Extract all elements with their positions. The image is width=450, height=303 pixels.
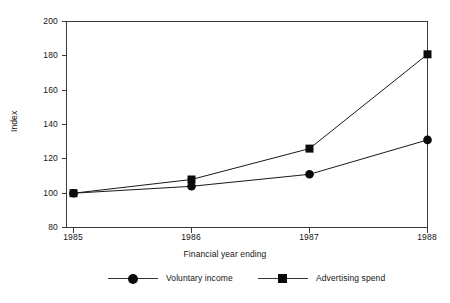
- plot-frame: [67, 22, 428, 228]
- ytick-label-180: 180: [28, 50, 58, 60]
- ytick-label-160: 160: [28, 85, 58, 95]
- series-advertising-spend: [70, 50, 432, 197]
- y-axis-title: Index: [9, 72, 19, 132]
- ytick-label-120: 120: [28, 153, 58, 163]
- xtick-label-1988: 1988: [407, 232, 447, 242]
- series-voluntary-income: [69, 136, 432, 198]
- square-marker-icon: [278, 274, 287, 283]
- xtick-label-1986: 1986: [171, 232, 211, 242]
- ytick-label-80: 80: [28, 222, 58, 232]
- legend-label: Advertising spend: [316, 273, 385, 283]
- data-point-marker: [423, 136, 432, 145]
- xtick-label-1985: 1985: [53, 232, 93, 242]
- chart-legend: Voluntary income Advertising spend: [0, 272, 450, 294]
- data-point-marker: [306, 145, 314, 153]
- ytick-label-200: 200: [28, 16, 58, 26]
- data-point-marker: [424, 50, 432, 58]
- line-chart: 200 180 160 140 120 100 80 1985 1986 198…: [0, 0, 450, 303]
- ytick-label-140: 140: [28, 119, 58, 129]
- data-point-marker: [69, 189, 78, 198]
- ytick-label-100: 100: [28, 188, 58, 198]
- x-tick-marks: [74, 228, 428, 233]
- data-point-marker: [305, 170, 314, 179]
- y-tick-marks: [62, 22, 67, 228]
- circle-marker-icon: [128, 274, 138, 284]
- legend-label: Voluntary income: [166, 273, 233, 283]
- x-axis-title: Financial year ending: [0, 249, 450, 259]
- data-point-marker: [187, 182, 196, 191]
- xtick-label-1987: 1987: [289, 232, 329, 242]
